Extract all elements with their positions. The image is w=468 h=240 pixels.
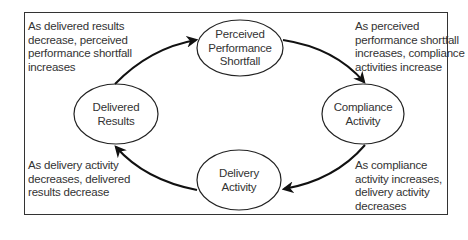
note-top-left: As delivered results decrease, perceived… [28,20,132,74]
node-perceived-label: Perceived Performance Shortfall [197,28,283,69]
note-bottom-left: As delivery activity decreases, delivere… [28,159,130,200]
note-bottom-right: As compliance activity increases, delive… [355,159,442,213]
node-compliance-label: Compliance Activity [322,101,404,128]
arrow-perceived-to-compliance [283,40,364,82]
arrow-compliance-to-delivery [284,145,365,189]
node-delivered-label: Delivered Results [74,101,158,128]
note-top-right: As perceived performance shortfall incre… [355,20,465,74]
node-delivery-label: Delivery Activity [197,167,281,194]
